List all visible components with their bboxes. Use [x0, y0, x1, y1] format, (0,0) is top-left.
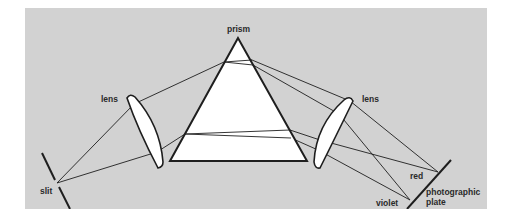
right-lens — [314, 98, 353, 168]
left-lens — [127, 95, 163, 168]
slit — [42, 153, 55, 180]
violet-label: violet — [376, 198, 398, 208]
plate-label-line2: plate — [426, 197, 446, 207]
prism — [170, 38, 307, 161]
spectrograph-diagram: prism lens lens slit red violet photogra… — [0, 0, 508, 209]
plate-label-line1: photographic — [426, 187, 481, 197]
prism-label: prism — [227, 24, 251, 34]
left-lens-label: lens — [101, 94, 118, 104]
slit-label: slit — [40, 186, 52, 196]
right-lens-label: lens — [362, 94, 379, 104]
red-label: red — [410, 171, 423, 181]
